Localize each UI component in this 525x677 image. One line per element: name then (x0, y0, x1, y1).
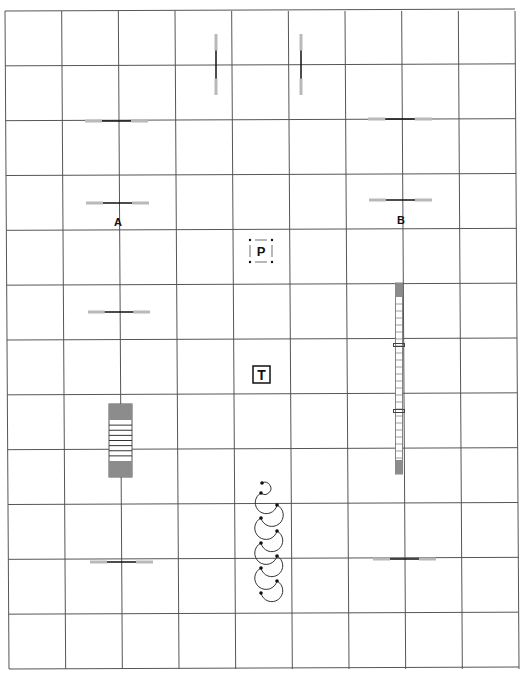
jump (368, 118, 432, 121)
jump-wing (133, 311, 150, 314)
grid-line-horizontal (8, 557, 518, 559)
grid-line-horizontal (5, 64, 515, 66)
dog-walk-contact-top (396, 283, 403, 297)
grid-line-vertical (288, 11, 292, 669)
grid-line-horizontal (6, 119, 516, 121)
jump-wing (368, 118, 385, 121)
pause-box-corner (271, 261, 273, 263)
grid-line-horizontal (8, 448, 518, 450)
tunnel-coil (255, 568, 277, 589)
tunnel-coil (261, 556, 283, 577)
station-label-b: B (397, 214, 405, 226)
grid-line-horizontal (7, 338, 517, 340)
tunnel-coil (261, 531, 283, 552)
grid-line-horizontal (7, 393, 517, 395)
jump-wing (300, 79, 303, 95)
grid-line-horizontal (9, 612, 519, 614)
tunnel-node (259, 516, 263, 520)
agility-course-diagram: P T A B (0, 0, 525, 677)
jump-wing (131, 120, 148, 123)
grid-line-vertical (458, 11, 462, 669)
pause-box-label: P (257, 244, 266, 259)
tunnel-node (275, 503, 279, 507)
pause-box: P (249, 239, 273, 263)
tunnel-node (259, 566, 263, 570)
jump-wing (300, 34, 303, 50)
grid-line-vertical (175, 11, 179, 669)
tunnel-node (259, 491, 263, 495)
grid-line-vertical (345, 11, 349, 669)
tunnel-node (259, 541, 263, 545)
jump (88, 311, 150, 314)
jump-wing (415, 118, 432, 121)
jump-wing (132, 202, 149, 205)
grid-line-horizontal (8, 503, 518, 505)
tunnel-coil (261, 581, 283, 602)
tunnel-coil (255, 543, 277, 564)
jump-wing (369, 199, 386, 202)
pause-box-corner (249, 239, 251, 241)
grid-line-horizontal (6, 174, 516, 176)
jump (369, 199, 432, 202)
grid-line-horizontal (5, 9, 515, 11)
pause-box-corner (271, 239, 273, 241)
jump-wing (88, 311, 105, 314)
tunnel-node (259, 591, 263, 595)
jump-wing (136, 561, 153, 564)
jump-wing (85, 120, 102, 123)
jumps (85, 34, 436, 564)
dog-walk-plank (396, 283, 403, 474)
a-frame (109, 404, 132, 477)
tunnel-node (275, 554, 279, 558)
table-obstacle: T (253, 366, 270, 383)
station-label-a: A (114, 216, 122, 228)
tunnel-node (260, 481, 264, 485)
jump-wing (373, 558, 390, 561)
tunnel-coil (261, 505, 283, 526)
pause-box-corner (249, 261, 251, 263)
tunnel-node (275, 529, 279, 533)
dog-walk (394, 283, 405, 474)
tunnel-node (275, 579, 279, 583)
jump-wing (86, 202, 103, 205)
grid-line-vertical (232, 11, 236, 669)
jump-wing (215, 34, 218, 50)
station-labels: A B (114, 214, 405, 228)
jump (86, 202, 149, 205)
jump-wing (415, 199, 432, 202)
grid-line-vertical (515, 11, 519, 669)
jump-wing (215, 79, 218, 95)
jump (215, 34, 218, 95)
grid-line-horizontal (9, 667, 519, 669)
jump-wing (419, 558, 436, 561)
coiled-tunnel (255, 481, 283, 601)
tunnel-coil (255, 518, 277, 539)
grid-line-horizontal (7, 283, 517, 285)
a-frame-contact-bottom (109, 461, 132, 477)
jump-wing (90, 561, 107, 564)
a-frame-contact-top (109, 404, 132, 420)
dog-walk-contact-bottom (396, 460, 403, 474)
table-label: T (257, 367, 266, 383)
grid-line-horizontal (6, 228, 516, 230)
